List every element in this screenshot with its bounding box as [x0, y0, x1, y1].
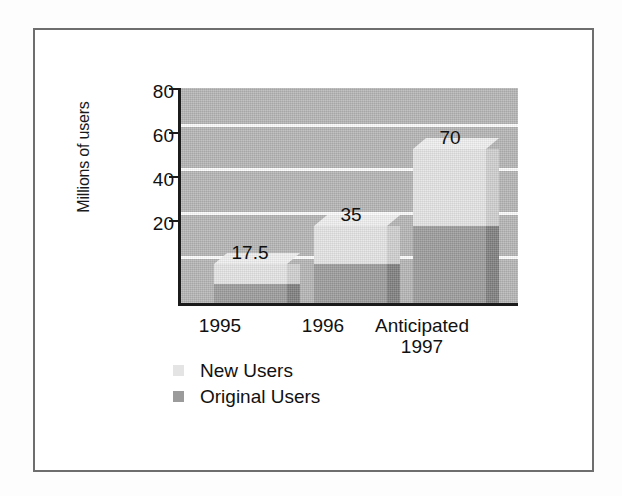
bar-1995-segment-new-users — [214, 264, 287, 284]
legend-label-original-users: Original Users — [200, 387, 320, 406]
bar-1996-right-face-new — [387, 226, 400, 264]
bar-1995-right-face-new — [287, 264, 300, 284]
figure-frame: Millions of users 80 60 40 20 — [33, 28, 594, 472]
y-tick-label-80: 80 — [140, 82, 174, 101]
y-tick-label-20: 20 — [140, 214, 174, 233]
bar-1995 — [214, 264, 287, 303]
y-tick-label-40: 40 — [140, 170, 174, 189]
bar-1997-right-face-original — [486, 226, 499, 303]
bar-1997-segment-original-users — [413, 226, 486, 303]
bar-1997-value-label: 70 — [390, 128, 510, 147]
bar-chart-figure: Millions of users 80 60 40 20 — [35, 30, 592, 470]
bar-1995-right-face-original — [287, 284, 300, 303]
legend-swatch-new-users — [173, 365, 184, 376]
page-canvas: Millions of users 80 60 40 20 — [0, 0, 622, 496]
x-tick-label-1997: Anticipated 1997 — [357, 315, 487, 358]
x-tick-label-1997-line1: Anticipated — [357, 315, 487, 336]
bar-1995-value-label: 17.5 — [190, 243, 310, 262]
bar-1996 — [314, 226, 387, 303]
bar-1996-segment-original-users — [314, 264, 387, 303]
y-axis-tick-labels: 80 60 40 20 — [130, 30, 174, 310]
bar-1996-segment-new-users — [314, 226, 387, 264]
legend-item-new-users: New Users — [173, 357, 320, 383]
legend-label-new-users: New Users — [200, 361, 293, 380]
x-axis-line — [178, 303, 518, 306]
y-tick-label-60: 60 — [140, 126, 174, 145]
bar-1997-segment-new-users — [413, 149, 486, 226]
plot-area: 17.5 35 70 — [178, 88, 518, 303]
bar-1996-value-label: 35 — [291, 205, 411, 224]
x-tick-label-1997-line2: 1997 — [357, 336, 487, 357]
chart-legend: New Users Original Users — [173, 357, 320, 409]
gridline-80 — [181, 124, 518, 127]
bar-1997 — [413, 149, 486, 303]
y-axis-title: Millions of users — [75, 62, 93, 252]
bar-1995-segment-original-users — [214, 284, 287, 303]
legend-item-original-users: Original Users — [173, 383, 320, 409]
bar-1996-right-face-original — [387, 264, 400, 303]
legend-swatch-original-users — [173, 391, 184, 402]
bar-1997-right-face-new — [486, 149, 499, 226]
